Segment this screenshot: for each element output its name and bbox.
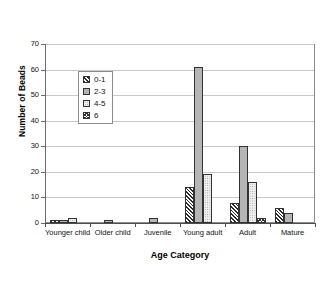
bar-adult-2-3 [239, 146, 248, 223]
y-tick-mark [41, 44, 45, 45]
x-tick-label: Juvenile [135, 228, 180, 244]
x-tick-mark [90, 223, 91, 227]
bar-younger-child-4-5 [68, 218, 77, 223]
x-tick-label: Older child [90, 228, 135, 244]
y-tick-mark [41, 197, 45, 198]
y-tick-label: 20 [15, 168, 39, 176]
y-tick-mark [41, 146, 45, 147]
y-tick-mark [41, 95, 45, 96]
bar-mature-0-1 [275, 208, 284, 223]
y-tick-label: 0 [15, 219, 39, 227]
y-tick-mark [41, 70, 45, 71]
x-tick-label: Young adult [180, 228, 225, 244]
y-tick-label: 60 [15, 66, 39, 74]
legend-item-6: 6 [83, 111, 106, 120]
y-tick-label: 30 [15, 142, 39, 150]
bar-group [180, 44, 225, 223]
y-tick-label: 40 [15, 117, 39, 125]
bar-adult-0-1 [230, 203, 239, 223]
y-tick-label: 10 [15, 193, 39, 201]
legend-label: 4-5 [94, 99, 106, 108]
bar-mature-2-3 [284, 213, 293, 223]
bar-chart: Number of Beads 010203040506070 0-12-34-… [0, 0, 334, 281]
y-tick-mark [41, 172, 45, 173]
legend-label: 6 [94, 111, 98, 120]
x-tick-mark [225, 223, 226, 227]
legend-swatch-icon [83, 100, 90, 107]
x-axis-title: Age Category [45, 250, 315, 260]
legend-label: 0-1 [94, 75, 106, 84]
legend-swatch-icon [83, 112, 90, 119]
x-tick-label: Adult [225, 228, 270, 244]
bar-juvenile-2-3 [149, 218, 158, 223]
bar-group [270, 44, 315, 223]
bar-younger-child-0-1 [50, 220, 59, 223]
bar-young-adult-0-1 [185, 187, 194, 223]
y-tick-mark [41, 121, 45, 122]
bar-adult-6 [257, 218, 266, 223]
bar-group [135, 44, 180, 223]
x-tick-mark [270, 223, 271, 227]
x-tick-label: Younger child [45, 228, 90, 244]
legend-item-4-5: 4-5 [83, 99, 106, 108]
legend-swatch-icon [83, 88, 90, 95]
x-tick-mark [135, 223, 136, 227]
bar-adult-4-5 [248, 182, 257, 223]
bar-young-adult-2-3 [194, 67, 203, 223]
bar-young-adult-4-5 [203, 174, 212, 223]
chart-legend: 0-12-34-56 [78, 71, 113, 124]
bar-older-child-2-3 [104, 220, 113, 223]
bar-younger-child-2-3 [59, 220, 68, 223]
y-tick-label: 50 [15, 91, 39, 99]
x-tick-mark [315, 223, 316, 227]
legend-item-2-3: 2-3 [83, 87, 106, 96]
legend-item-0-1: 0-1 [83, 75, 106, 84]
y-axis-ticks: 010203040506070 [0, 0, 39, 281]
x-axis-labels: Younger childOlder childJuvenileYoung ad… [45, 228, 315, 244]
x-tick-mark [180, 223, 181, 227]
legend-label: 2-3 [94, 87, 106, 96]
x-tick-label: Mature [270, 228, 315, 244]
y-tick-label: 70 [15, 40, 39, 48]
x-tick-mark [45, 223, 46, 227]
bar-group [225, 44, 270, 223]
legend-swatch-icon [83, 76, 90, 83]
